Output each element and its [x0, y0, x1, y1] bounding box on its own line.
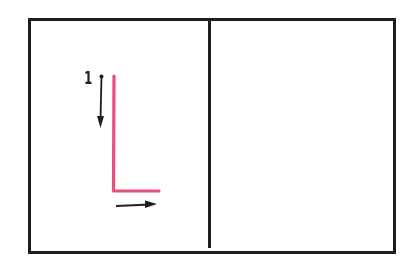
- letter-l-stroke: [114, 76, 160, 191]
- arrow-down-icon: [97, 75, 104, 129]
- arrow-right-icon: [116, 201, 157, 209]
